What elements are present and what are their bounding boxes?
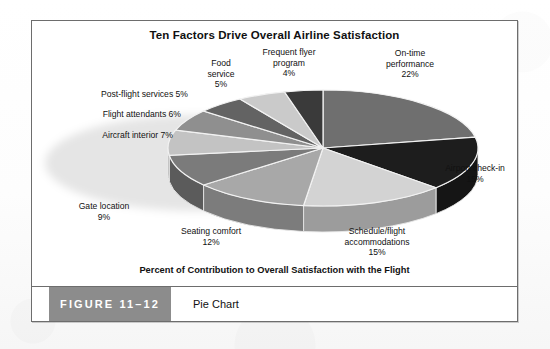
figure-caption: Pie Chart [171,287,517,321]
pie-top-faces: On-time performance 22%Airport check-in … [168,90,478,206]
chart-title: Ten Factors Drive Overall Airline Satisf… [32,29,517,41]
figure-bar-gutter [32,287,49,321]
label-schedule-flight-accommodations: Schedule/flight accommodations 15% [322,226,432,258]
label-on-time-performance: On-time performance 22% [364,48,456,80]
label-flight-attendants: Flight attendants 6% [41,109,181,120]
pie-chart: On-time performance 22%Airport check-in … [33,45,518,273]
label-seating-comfort: Seating comfort 12% [161,226,261,247]
chart-axis-caption: Percent of Contribution to Overall Satis… [32,265,517,275]
label-aircraft-interior: Aircraft interior 7% [37,130,173,141]
label-airport-check-in: Airport check-in 15% [431,163,519,184]
figure-number-tag: FIGURE 11–12 [49,287,171,321]
figure-number-bar: FIGURE 11–12 Pie Chart [32,286,517,321]
figure-frame: Ten Factors Drive Overall Airline Satisf… [31,20,518,322]
scanned-page: Ten Factors Drive Overall Airline Satisf… [0,0,550,349]
label-food-service: Food service 5% [194,58,248,90]
label-gate-location: Gate location 9% [58,201,150,222]
label-post-flight-services: Post-flight services 5% [49,89,188,100]
label-frequent-flyer-program: Frequent flyer program 4% [246,47,332,79]
